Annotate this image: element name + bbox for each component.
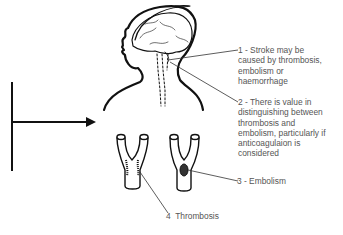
label-1-stroke-causes: 1 - Stroke may be caused by thrombosis, … <box>238 45 322 86</box>
vessel-embolism <box>170 135 199 192</box>
label-3-embolism: 3 - Embolism <box>237 176 286 186</box>
vessel-thrombosis <box>117 135 148 190</box>
label-2-distinguishing: 2 - There is value in distinguishing bet… <box>238 97 326 159</box>
entry-arrow <box>12 82 96 171</box>
label-4-thrombosis: 4 Thrombosis <box>166 211 219 221</box>
head-silhouette <box>104 6 203 110</box>
